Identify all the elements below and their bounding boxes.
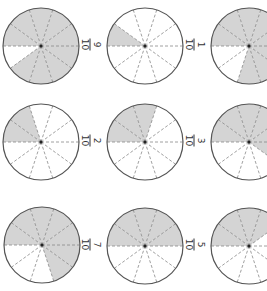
- denominator: 10: [184, 239, 193, 250]
- denominator: 10: [184, 135, 193, 146]
- fraction-bar: [194, 239, 195, 251]
- fraction-circle-7-10: [4, 207, 80, 283]
- denominator: 10: [80, 39, 89, 50]
- center-dot: [247, 244, 250, 247]
- fraction-circle-9-10: [3, 8, 79, 84]
- fraction-bar: [90, 239, 91, 251]
- center-dot: [247, 140, 250, 143]
- fraction-circle-3-10: [107, 104, 183, 180]
- center-dot: [40, 243, 43, 246]
- fraction-circle-1-10: [107, 8, 183, 84]
- numerator: 9: [92, 42, 101, 48]
- fraction-circle-4-10: [211, 208, 267, 284]
- center-dot: [143, 44, 146, 47]
- numerator: 5: [196, 242, 205, 248]
- fraction-circle-5-10: [107, 208, 183, 284]
- fraction-label-9-10: 9 10: [80, 37, 101, 53]
- center-dot: [39, 44, 42, 47]
- fraction-circles: [0, 0, 267, 291]
- center-dot: [143, 140, 146, 143]
- center-dot: [247, 44, 250, 47]
- denominator: 10: [184, 39, 193, 50]
- fraction-label-1-10: 1 10: [184, 37, 205, 53]
- fraction-circle-8-10: [211, 8, 267, 84]
- fraction-bar: [90, 39, 91, 51]
- numerator: 7: [92, 242, 101, 248]
- fraction-bar: [194, 135, 195, 147]
- fraction-label-3-10: 3 10: [184, 133, 205, 149]
- denominator: 10: [80, 135, 89, 146]
- numerator: 1: [196, 42, 205, 48]
- center-dot: [143, 244, 146, 247]
- fraction-worksheet: 9 10 1 10 2 10 3 10 7 10 5 10: [0, 0, 267, 291]
- fraction-label-5-10: 5 10: [184, 237, 205, 253]
- fraction-bar: [90, 135, 91, 147]
- center-dot: [39, 140, 42, 143]
- fraction-bar: [194, 39, 195, 51]
- fraction-label-2-10: 2 10: [80, 133, 101, 149]
- fraction-circle-2-10: [3, 104, 79, 180]
- numerator: 3: [196, 138, 205, 144]
- fraction-circle-6-10: [211, 104, 267, 180]
- numerator: 2: [92, 138, 101, 144]
- denominator: 10: [80, 239, 89, 250]
- fraction-label-7-10: 7 10: [80, 237, 101, 253]
